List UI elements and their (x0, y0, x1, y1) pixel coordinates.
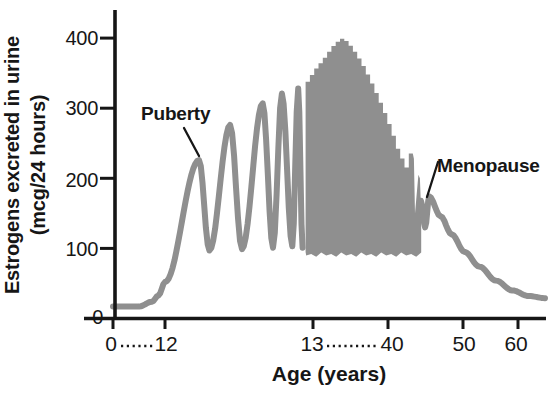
puberty-leader-line (184, 128, 199, 156)
x-axis-title: Age (years) (229, 362, 429, 386)
x-tick-50: 50 (442, 332, 486, 356)
y-tick-200: 200 (50, 169, 98, 192)
x-tick-12: 12 (144, 332, 188, 356)
estrogen-lifespan-chart: 400 300 200 100 0 0 12 13 40 50 60 Estro… (0, 0, 560, 398)
y-tick-400: 400 (50, 27, 98, 50)
x-tick-40: 40 (370, 332, 414, 356)
x-tick-0: 0 (89, 332, 133, 356)
menopause-annotation: Menopause (437, 155, 540, 177)
y-tick-100: 100 (50, 238, 98, 261)
y-tick-0: 0 (55, 306, 103, 329)
y-axis-title-line2: (mcg/24 hours) (27, 40, 51, 290)
y-tick-300: 300 (50, 97, 98, 120)
cycle-band (306, 39, 422, 257)
perimenopause-and-postmenopause-decline-curve (421, 197, 545, 299)
puberty-annotation: Puberty (141, 103, 210, 125)
y-axis-title-line1: Estrogens excreted in urine (1, 0, 25, 330)
x-tick-60: 60 (494, 332, 538, 356)
x-tick-13: 13 (290, 332, 334, 356)
